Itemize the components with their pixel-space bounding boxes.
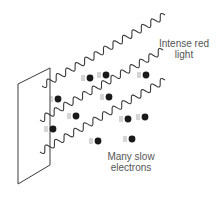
electron-dot — [125, 116, 132, 123]
electron-dot — [55, 96, 62, 103]
electron — [119, 116, 131, 123]
electron-dot — [143, 72, 150, 79]
electron-dot — [50, 126, 57, 133]
electron — [67, 113, 79, 120]
electron-dot — [95, 138, 102, 145]
label-line-2: electrons — [94, 162, 168, 173]
electron — [81, 75, 93, 82]
electron — [97, 72, 109, 79]
metal-plate — [18, 68, 50, 184]
light-wave-2 — [40, 48, 163, 121]
label-line-1: Many slow — [94, 151, 168, 162]
electron — [49, 96, 61, 103]
electrons — [44, 72, 149, 145]
electron-dot — [87, 75, 94, 82]
electron — [100, 94, 112, 101]
label-line-1: Intense red — [150, 38, 218, 49]
electron-dot — [106, 94, 113, 101]
electron-dot — [103, 72, 110, 79]
intense-red-light-label: Intense red light — [150, 38, 218, 60]
electron — [137, 72, 149, 79]
plate-outline — [18, 68, 50, 184]
many-slow-electrons-label: Many slow electrons — [94, 151, 168, 173]
electron — [89, 138, 101, 145]
electron — [123, 136, 135, 143]
electron-dot — [73, 113, 80, 120]
photoelectric-diagram — [0, 0, 219, 204]
label-line-2: light — [150, 49, 218, 60]
electron-dot — [142, 114, 149, 121]
electron-dot — [129, 136, 136, 143]
electron — [136, 114, 148, 121]
light-waves — [40, 13, 165, 153]
